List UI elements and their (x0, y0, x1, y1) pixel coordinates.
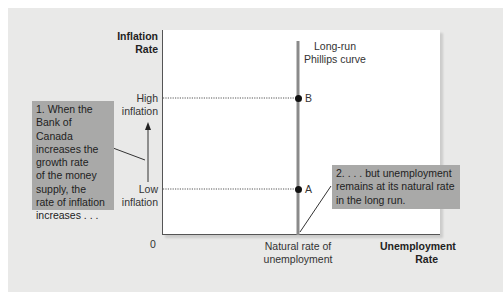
left-callout-line: rate of inflation (36, 196, 110, 209)
right-callout-line: remains at its natural rate (336, 180, 456, 193)
left-callout-line: 1. When the (36, 103, 110, 116)
right-callout-line: 2. . . . but unemployment (336, 167, 456, 180)
arrow-head-icon (145, 122, 151, 130)
curve-label-line2: Phillips curve (304, 53, 366, 66)
y-axis-title: Inflation Rate (100, 30, 158, 56)
right-callout: 2. . . . but unemployment remains at its… (332, 165, 460, 209)
left-callout-line: growth rate (36, 156, 110, 169)
x-axis-title: Unemployment Rate (380, 240, 438, 266)
point-b-label: B (305, 92, 312, 105)
right-callout-line: in the long run. (336, 194, 456, 207)
y-axis-title-line1: Inflation (100, 30, 158, 43)
y-axis-title-line2: Rate (100, 43, 158, 56)
point-a-label: A (305, 183, 312, 196)
curve-label-line1: Long-run (304, 40, 366, 53)
left-callout-line: Bank of Canada (36, 116, 110, 143)
natural-rate-line2: unemployment (248, 253, 348, 266)
left-callout: 1. When the Bank of Canada increases the… (32, 101, 114, 210)
x-axis-title-line1: Unemployment (380, 240, 438, 253)
left-callout-leader (113, 148, 145, 160)
point-b-marker (295, 95, 302, 102)
curve-label: Long-run Phillips curve (304, 40, 366, 66)
natural-rate-line1: Natural rate of (248, 240, 348, 253)
point-a-marker (295, 186, 302, 193)
left-callout-line: supply, the (36, 183, 110, 196)
left-callout-line: of the money (36, 169, 110, 182)
left-callout-line: increases the (36, 143, 110, 156)
natural-rate-label: Natural rate of unemployment (248, 240, 348, 266)
left-callout-line: increases . . . (36, 209, 110, 222)
x-axis-title-line2: Rate (380, 253, 438, 266)
origin-label: 0 (150, 238, 156, 251)
